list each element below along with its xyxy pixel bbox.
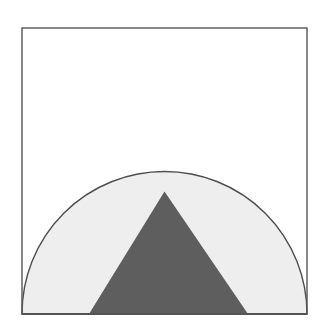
geometry-figure: Semicircle with inscribed triangle [0,0,321,325]
figure-canvas: Semicircle with inscribed triangle [0,0,321,325]
